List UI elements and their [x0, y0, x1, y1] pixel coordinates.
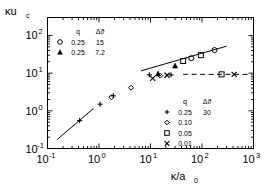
lower-legend-marker-square — [165, 131, 170, 136]
svg-text:10: 10 — [36, 153, 48, 165]
x-tick-label: 103 — [242, 151, 260, 165]
lower-legend-dtheta-value: 30 — [203, 109, 211, 116]
upper-legend-q-value: 0.25 — [71, 49, 85, 56]
svg-text:10: 10 — [25, 29, 37, 41]
svg-text:10: 10 — [25, 143, 37, 155]
upper-legend-dtheta-value: 7.2 — [95, 49, 105, 56]
upper-legend-header-q: q — [76, 28, 80, 36]
svg-text:κu: κu — [5, 5, 17, 17]
lower-legend-q-value: 0.10 — [178, 119, 192, 126]
y-tick-label: 102 — [25, 27, 42, 41]
upper-legend-dtheta-value: 15 — [96, 39, 104, 46]
svg-text:10: 10 — [25, 105, 37, 117]
lower-slope-line — [57, 109, 93, 140]
data-point-triangle — [173, 63, 178, 68]
svg-text:-1: -1 — [49, 151, 56, 160]
upper-legend-marker-circle-open — [58, 40, 63, 45]
upper-legend-header-dtheta: Δϑ — [96, 28, 105, 35]
x-axis-label: κ/a0 — [171, 170, 198, 185]
svg-text:3: 3 — [256, 151, 260, 160]
y-tick-label: 101 — [25, 65, 42, 79]
lower-legend-q-value: 0.25 — [178, 109, 192, 116]
lower-legend-header-dtheta: Δϑ — [203, 98, 212, 105]
svg-text:1: 1 — [153, 151, 157, 160]
upper-legend-marker-triangle — [58, 50, 63, 55]
svg-text:-1: -1 — [37, 141, 44, 150]
y-tick-label: 100 — [25, 103, 42, 117]
data-point-diamond — [129, 85, 134, 90]
svg-text:10: 10 — [242, 153, 254, 165]
lower-legend-header-q: q — [183, 98, 187, 106]
x-tick-label: 102 — [191, 151, 209, 165]
x-tick-label: 10-1 — [36, 151, 55, 165]
svg-text:10: 10 — [88, 153, 100, 165]
x-tick-label: 101 — [139, 151, 157, 165]
svg-text:2: 2 — [204, 151, 208, 160]
svg-text:0: 0 — [101, 151, 105, 160]
plot-canvas: 10-110010110210310-1100101102κ/a0κucqΔϑ0… — [0, 0, 272, 193]
upper-legend-q-value: 0.25 — [71, 39, 85, 46]
svg-text:10: 10 — [191, 153, 203, 165]
plot-frame — [48, 18, 254, 149]
svg-text:κ/a: κ/a — [171, 170, 187, 182]
svg-text:10: 10 — [25, 67, 37, 79]
svg-text:0: 0 — [38, 103, 42, 112]
x-tick-label: 100 — [88, 151, 106, 165]
lower-legend-q-value: 0.01 — [178, 140, 192, 147]
lower-legend-q-value: 0.05 — [178, 130, 192, 137]
chart-figure: 10-110010110210310-1100101102κ/a0κucqΔϑ0… — [0, 0, 272, 193]
svg-text:1: 1 — [38, 65, 42, 74]
svg-text:0: 0 — [194, 176, 198, 185]
svg-text:c: c — [26, 11, 30, 20]
y-axis-label: κuc — [5, 5, 30, 20]
svg-text:10: 10 — [139, 153, 151, 165]
svg-text:2: 2 — [38, 27, 42, 36]
lower-legend-marker-diamond — [165, 120, 170, 125]
